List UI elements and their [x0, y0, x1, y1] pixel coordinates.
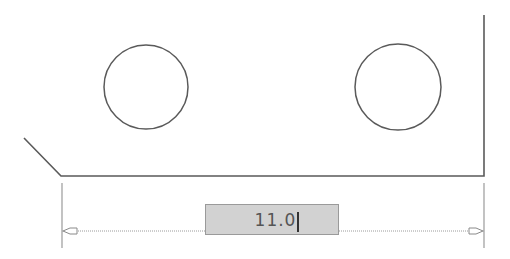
- left-hole-circle[interactable]: [104, 45, 188, 129]
- right-arrowhead-icon: [469, 228, 483, 234]
- left-arrowhead-icon: [63, 228, 77, 234]
- right-hole-circle[interactable]: [355, 44, 441, 130]
- cad-canvas[interactable]: 11.0: [0, 0, 510, 259]
- part-outline[interactable]: [24, 15, 484, 176]
- dimension-value-text: 11.0: [245, 210, 297, 230]
- dimension-value-input[interactable]: 11.0: [205, 204, 339, 235]
- text-cursor-icon: [297, 212, 299, 232]
